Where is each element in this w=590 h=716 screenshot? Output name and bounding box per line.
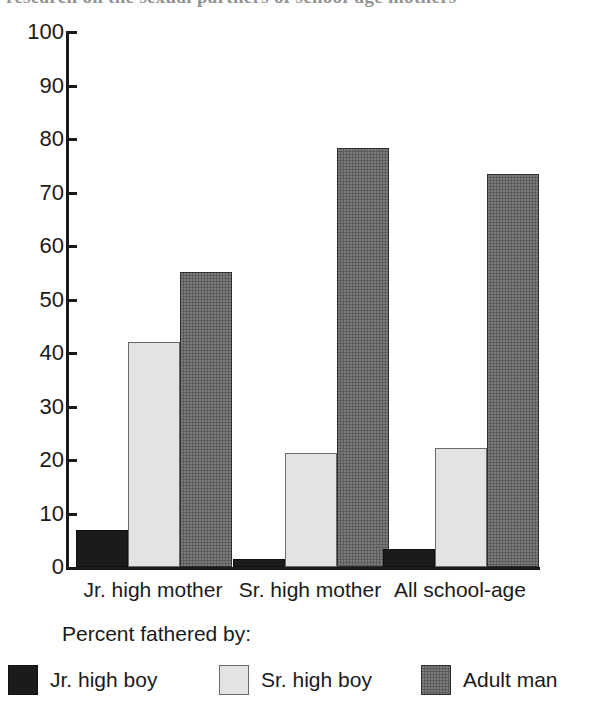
y-axis-tick-labels: 1009080706050403020100 bbox=[8, 0, 64, 600]
x-axis-line bbox=[66, 567, 540, 570]
y-axis-tick-label: 80 bbox=[10, 128, 64, 150]
x-axis-category-label: All school-age bbox=[360, 578, 560, 602]
y-axis-tick-label: 40 bbox=[10, 342, 64, 364]
y-axis-tick-label: 50 bbox=[10, 289, 64, 311]
y-axis-tick-label: 30 bbox=[10, 396, 64, 418]
legend-item-label: Adult man bbox=[463, 668, 558, 692]
y-axis-tick-label: 90 bbox=[10, 75, 64, 97]
bar-jr-high-mother-jr-high-boy bbox=[76, 530, 128, 567]
y-axis-tick-label: 0 bbox=[10, 556, 64, 578]
plot-area: 1009080706050403020100 bbox=[0, 0, 590, 600]
legend-swatch-icon bbox=[8, 665, 38, 695]
bar-chart-figure: 1009080706050403020100 Jr. high motherSr… bbox=[0, 0, 590, 716]
bar-sr-high-mother-adult-man bbox=[337, 148, 389, 567]
bar-all-school-age-adult-man bbox=[487, 174, 539, 567]
y-axis-tick-label: 20 bbox=[10, 449, 64, 471]
legend-swatch-icon bbox=[421, 665, 451, 695]
legend-swatch-icon bbox=[219, 665, 249, 695]
bar-sr-high-mother-jr-high-boy bbox=[233, 559, 285, 567]
legend-title: Percent fathered by: bbox=[62, 622, 251, 646]
legend-item-label: Jr. high boy bbox=[50, 668, 157, 692]
y-axis-tick-label: 10 bbox=[10, 503, 64, 525]
y-axis-tick-label: 70 bbox=[10, 182, 64, 204]
legend-item-adult-man[interactable]: Adult man bbox=[421, 665, 558, 695]
bar-all-school-age-sr-high-boy bbox=[435, 448, 487, 567]
bar-jr-high-mother-sr-high-boy bbox=[128, 342, 180, 567]
bar-sr-high-mother-sr-high-boy bbox=[285, 453, 337, 567]
y-axis-tick-label: 60 bbox=[10, 235, 64, 257]
y-axis-line bbox=[66, 32, 69, 570]
legend-item-sr-high-boy[interactable]: Sr. high boy bbox=[219, 665, 372, 695]
bar-jr-high-mother-adult-man bbox=[180, 272, 232, 567]
bar-all-school-age-jr-high-boy bbox=[383, 549, 435, 567]
y-axis-tick-label: 100 bbox=[10, 21, 64, 43]
legend-item-jr-high-boy[interactable]: Jr. high boy bbox=[8, 665, 157, 695]
legend-item-label: Sr. high boy bbox=[261, 668, 372, 692]
